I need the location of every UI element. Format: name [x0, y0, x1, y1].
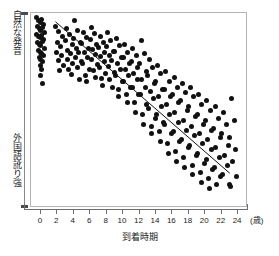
data-point [122, 42, 127, 47]
x-axis-right-cap [247, 204, 248, 210]
data-point [199, 180, 204, 185]
x-axis-tick-label: 0 [38, 216, 42, 225]
data-point [141, 122, 146, 127]
data-point [92, 31, 97, 36]
data-point [199, 102, 204, 107]
x-axis-tick [204, 210, 205, 214]
x-axis-tick-label: 20 [200, 216, 209, 225]
data-point [188, 85, 193, 90]
data-point [197, 131, 202, 136]
data-point [158, 139, 163, 144]
data-point [129, 59, 134, 64]
x-axis-title: 到着時期 [0, 232, 279, 243]
y-axis-top-cap [21, 12, 28, 15]
data-point [186, 104, 191, 109]
data-point [79, 41, 84, 46]
data-point [97, 65, 102, 70]
data-point [178, 98, 183, 103]
data-point [142, 51, 147, 56]
data-point [138, 92, 143, 97]
data-point [130, 46, 135, 51]
data-point [174, 159, 179, 164]
x-axis-tick-label: 4 [71, 216, 75, 225]
data-point [187, 143, 192, 148]
data-point [226, 143, 231, 148]
x-axis-tick-label: 22 [216, 216, 225, 225]
data-point [182, 165, 187, 170]
data-point [105, 30, 110, 35]
data-point [190, 172, 195, 177]
data-point [230, 159, 235, 164]
data-point [58, 44, 63, 49]
data-point [65, 57, 70, 62]
data-point [131, 71, 136, 76]
data-point [172, 75, 177, 80]
x-axis-tick-label: 2 [54, 216, 58, 225]
data-point [205, 137, 210, 142]
data-point [132, 100, 137, 105]
data-point [57, 68, 62, 73]
data-point [112, 49, 117, 54]
data-point [113, 73, 118, 78]
data-point [227, 135, 232, 140]
data-point [88, 37, 93, 42]
data-point [219, 131, 224, 136]
data-point [164, 102, 169, 107]
x-axis-tick-label: 24 [233, 216, 242, 225]
data-point [170, 92, 175, 97]
data-point [183, 90, 188, 95]
x-axis-tick-label: 12 [134, 216, 143, 225]
data-point [145, 73, 150, 78]
data-point [163, 69, 168, 74]
x-axis-tick-label: 18 [183, 216, 192, 225]
data-point [124, 92, 129, 97]
data-point [207, 186, 212, 191]
data-point [75, 65, 80, 70]
x-axis-tick [171, 210, 172, 214]
y-axis-line [24, 13, 25, 207]
x-axis-tick-label: 14 [150, 216, 159, 225]
data-point [84, 79, 89, 84]
data-point [148, 89, 153, 94]
data-point [234, 174, 239, 179]
x-axis-tick-label: 6 [87, 216, 91, 225]
scatter-plot-figure: 自然な発音 外国語訛り強 024681012141618202224 (歳) 到… [0, 0, 279, 256]
data-point [190, 163, 195, 168]
x-axis-tick [56, 210, 57, 214]
data-point [96, 45, 101, 50]
data-point [195, 112, 200, 117]
data-point [181, 118, 186, 123]
data-point [149, 131, 154, 136]
data-point [206, 176, 211, 181]
data-point [93, 75, 98, 80]
data-point [166, 151, 171, 156]
data-point [173, 149, 178, 154]
x-axis-tick [89, 210, 90, 214]
data-point [90, 47, 95, 52]
data-point [176, 120, 181, 125]
x-axis-tick-label: 10 [118, 216, 127, 225]
data-point [213, 104, 218, 109]
data-point [208, 108, 213, 113]
data-point [139, 38, 144, 43]
data-point [157, 129, 162, 134]
data-point [106, 64, 111, 69]
data-point [196, 92, 201, 97]
data-point [189, 124, 194, 129]
data-point [179, 137, 184, 142]
x-axis-unit-label: (歳) [250, 216, 263, 225]
data-point [64, 26, 69, 31]
data-point [143, 85, 148, 90]
data-point [114, 36, 119, 41]
data-point [116, 87, 121, 92]
x-axis-line [24, 209, 248, 210]
data-point [76, 50, 81, 55]
x-axis-tick [106, 210, 107, 214]
data-point [155, 63, 160, 68]
data-point [107, 77, 112, 82]
data-point [229, 96, 234, 101]
data-point [221, 110, 226, 115]
data-point [180, 81, 185, 86]
data-point [39, 67, 44, 72]
data-point [220, 172, 225, 177]
